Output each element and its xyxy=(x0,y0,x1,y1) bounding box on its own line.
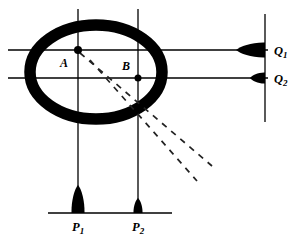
peak-shape-q2 xyxy=(250,72,265,83)
figure-canvas: A B Q1 Q2 P1 P2 xyxy=(0,0,294,238)
peak-shape-q1 xyxy=(236,42,265,57)
point-marker-a xyxy=(74,46,82,54)
point-label-b: B xyxy=(121,59,130,73)
peak-shape-p1 xyxy=(71,185,84,213)
peak-shape-p2 xyxy=(133,198,142,213)
signal-label-q1: Q1 xyxy=(274,44,288,60)
signal-label-q2: Q2 xyxy=(274,72,288,88)
projection-diagram-svg: A B Q1 Q2 P1 P2 xyxy=(0,0,294,238)
annulus-ring xyxy=(30,25,162,119)
signal-label-p1: P1 xyxy=(72,220,84,236)
point-label-a: A xyxy=(59,56,68,70)
point-marker-b xyxy=(135,75,142,82)
signal-label-p2: P2 xyxy=(132,220,145,236)
